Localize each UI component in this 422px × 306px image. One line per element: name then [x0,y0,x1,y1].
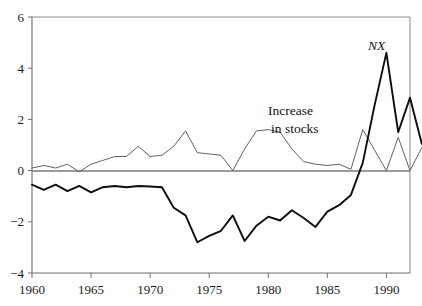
line-chart: 6420−2−4 1960196519701975198019851990 In… [0,0,422,306]
chart-figure: 6420−2−4 1960196519701975198019851990 In… [0,0,422,306]
x-tick-label: 1990 [373,282,399,297]
nx-series-label: NX [367,38,386,53]
series-line-increase-in-stocks [32,130,422,172]
y-tick-label: 0 [18,163,25,178]
x-axis-ticks: 1960196519701975198019851990 [19,273,399,297]
y-tick-label: 4 [18,61,25,76]
increase-in-stocks-label-line2: in stocks [271,121,319,136]
y-tick-label: 6 [18,10,25,25]
x-tick-label: 1960 [19,282,45,297]
y-axis-ticks: 6420−2−4 [10,10,32,281]
y-tick-label: −4 [10,266,24,281]
x-tick-label: 1970 [137,282,163,297]
annotation-increase-in-stocks: Increase in stocks [268,103,319,136]
y-tick-label: −2 [10,214,24,229]
increase-in-stocks-label-line1: Increase [268,103,313,118]
x-tick-label: 1975 [196,282,222,297]
series-line-nx [32,53,422,242]
x-tick-label: 1965 [78,282,104,297]
x-tick-label: 1985 [314,282,340,297]
y-tick-label: 2 [18,112,25,127]
plot-frame [32,17,410,273]
x-tick-label: 1980 [255,282,281,297]
